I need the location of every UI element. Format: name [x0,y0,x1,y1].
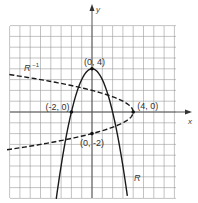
point-label: (0, 4) [84,57,105,67]
x-axis-arrow-icon [185,110,192,115]
curve-r-inverse-label: R −1 [24,62,40,73]
y-axis-label: y [95,5,101,14]
point-marker [90,132,94,136]
point-label: (-2, 0) [45,102,69,112]
point-label: (4, 0) [137,101,158,111]
point-marker [131,110,135,114]
labels: (0, 4)(-2, 0)(4, 0)(0, -2)RR −1 [24,57,158,183]
curve-r-label: R [134,173,141,183]
point-marker [90,67,94,71]
point-label: (0, -2) [80,138,104,148]
point-marker [70,110,74,114]
y-axis-arrow-icon [90,4,95,11]
coordinate-plot: xy (0, 4)(-2, 0)(4, 0)(0, -2)RR −1 [0,0,198,203]
inverse-superscript: −1 [31,62,40,68]
x-axis-label: x [187,117,193,126]
